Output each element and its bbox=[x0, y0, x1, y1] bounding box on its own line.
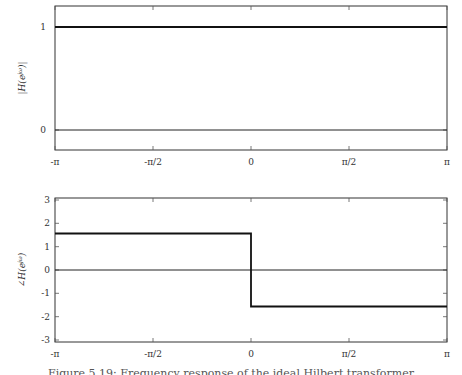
x-tick-label: -π bbox=[51, 157, 60, 167]
figure: 1 0 -π -π/2 0 π/2 π |H(ejω)| 3 bbox=[0, 0, 462, 375]
y-tick-label: 2 bbox=[44, 218, 50, 228]
y-tick-label: 0 bbox=[44, 265, 50, 275]
phase-plot: 3 2 1 0 -1 -2 -3 -π -π/2 0 π/2 π ∠H(ejω) bbox=[16, 195, 450, 359]
x-tick-label: -π/2 bbox=[144, 349, 162, 359]
y-tick-label: 1 bbox=[44, 242, 50, 252]
y-ticks bbox=[55, 27, 447, 130]
x-tick-label: -π/2 bbox=[144, 157, 162, 167]
y-tick-label: 1 bbox=[40, 22, 46, 32]
x-tick-label: 0 bbox=[248, 157, 254, 167]
y-tick-label: -1 bbox=[41, 288, 50, 298]
y-tick-label: -3 bbox=[41, 335, 50, 345]
y-axis-label: ∠H(ejω) bbox=[16, 252, 27, 287]
y-axis-label: |H(ejω)| bbox=[16, 61, 28, 94]
y-tick-label: 0 bbox=[40, 125, 46, 135]
x-tick-label: π/2 bbox=[342, 349, 357, 359]
magnitude-plot: 1 0 -π -π/2 0 π/2 π |H(ejω)| bbox=[16, 6, 450, 167]
y-tick-label: -2 bbox=[41, 312, 50, 322]
y-tick-label: 3 bbox=[44, 195, 50, 205]
x-tick-label: π bbox=[444, 157, 450, 167]
x-tick-label: π bbox=[444, 349, 450, 359]
x-tick-label: π/2 bbox=[342, 157, 357, 167]
x-tick-label: -π bbox=[51, 349, 60, 359]
x-tick-label: 0 bbox=[248, 349, 254, 359]
figure-caption: Figure 5.19: Frequency response of the i… bbox=[0, 366, 462, 375]
